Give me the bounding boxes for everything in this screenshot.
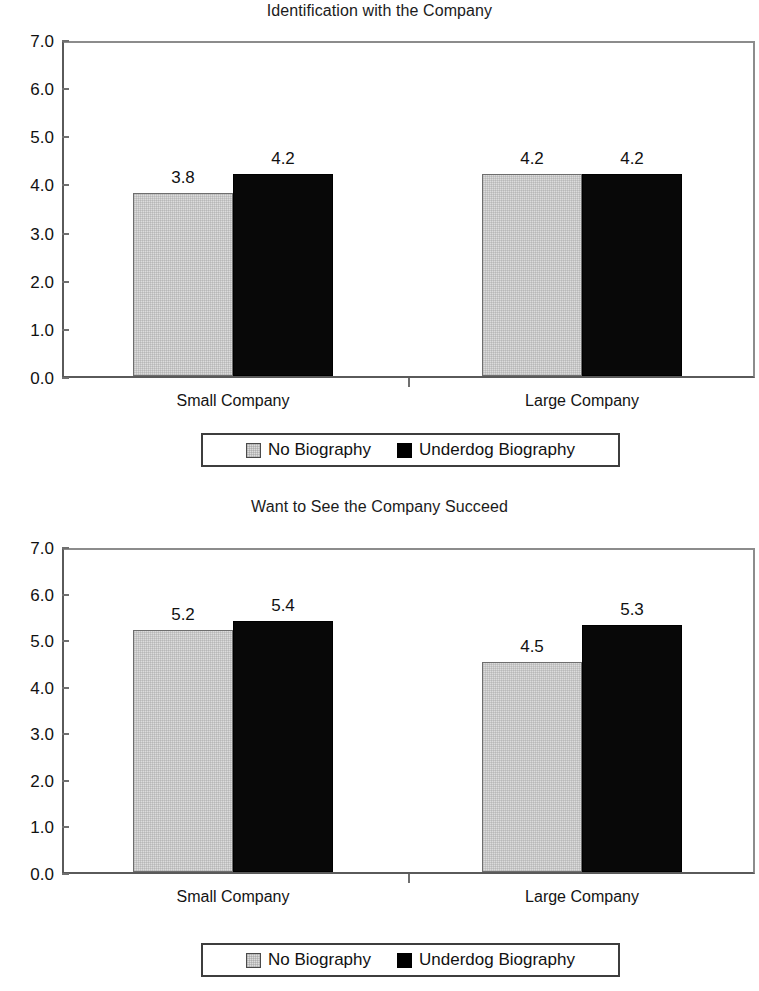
legend-label: No Biography <box>268 441 371 459</box>
bar-value-label: 5.4 <box>271 597 295 615</box>
bar-value-label: 3.8 <box>171 169 195 187</box>
bar-value-label: 4.2 <box>271 150 295 168</box>
bar <box>582 625 682 872</box>
legend-swatch-icon <box>246 443 261 458</box>
legend-item: Underdog Biography <box>397 441 575 459</box>
bar <box>233 174 333 376</box>
y-axis-tick-mark <box>62 594 69 596</box>
y-axis-tick-label: 6.0 <box>6 81 54 98</box>
y-axis-tick-mark <box>62 233 69 235</box>
bar-value-label: 4.5 <box>520 638 544 656</box>
y-axis-tick-label: 1.0 <box>6 819 54 836</box>
x-axis-group-separator-tick <box>408 378 410 387</box>
y-axis-tick-mark <box>62 377 69 379</box>
y-axis-tick-label: 3.0 <box>6 225 54 242</box>
y-axis-tick-label: 2.0 <box>6 772 54 789</box>
chart-legend: No BiographyUnderdog Biography <box>201 943 620 977</box>
legend-label: Underdog Biography <box>419 951 575 969</box>
y-axis-tick-mark <box>62 136 69 138</box>
y-axis-tick-mark <box>62 640 69 642</box>
legend-label: Underdog Biography <box>419 441 575 459</box>
y-axis: 0.01.02.03.04.05.06.07.0 <box>0 490 54 991</box>
y-axis-tick-label: 1.0 <box>6 321 54 338</box>
x-axis-category-label: Small Company <box>177 392 290 410</box>
bar <box>233 621 333 872</box>
x-axis-category-label: Large Company <box>525 392 639 410</box>
bar-value-label: 5.3 <box>620 601 644 619</box>
y-axis-tick-label: 0.0 <box>6 866 54 883</box>
y-axis-tick-mark <box>62 873 69 875</box>
chart-title: Want to See the Company Succeed <box>0 498 759 516</box>
legend-item: Underdog Biography <box>397 951 575 969</box>
y-axis-tick-mark <box>62 547 69 549</box>
y-axis-tick-mark <box>62 329 69 331</box>
x-axis-group-separator-tick <box>408 874 410 883</box>
y-axis-tick-mark <box>62 780 69 782</box>
x-axis-category-label: Small Company <box>177 888 290 906</box>
y-axis-tick-label: 5.0 <box>6 129 54 146</box>
y-axis-tick-mark <box>62 40 69 42</box>
bar-value-label: 5.2 <box>171 606 195 624</box>
y-axis-tick-label: 7.0 <box>6 33 54 50</box>
bar <box>133 193 233 376</box>
chart-legend: No BiographyUnderdog Biography <box>201 433 620 467</box>
chart-title: Identification with the Company <box>0 2 759 20</box>
bar <box>482 174 582 376</box>
y-axis: 0.01.02.03.04.05.06.07.0 <box>0 0 54 490</box>
y-axis-tick-label: 4.0 <box>6 679 54 696</box>
legend-swatch-icon <box>246 953 261 968</box>
y-axis-tick-mark <box>62 733 69 735</box>
legend-item: No Biography <box>246 951 371 969</box>
y-axis-tick-mark <box>62 826 69 828</box>
legend-swatch-icon <box>397 443 412 458</box>
figure-page: Identification with the Company 0.01.02.… <box>0 0 759 991</box>
y-axis-tick-mark <box>62 88 69 90</box>
plot-area <box>62 548 755 874</box>
y-axis-tick-label: 7.0 <box>6 540 54 557</box>
legend-label: No Biography <box>268 951 371 969</box>
legend-item: No Biography <box>246 441 371 459</box>
y-axis-tick-label: 2.0 <box>6 273 54 290</box>
y-axis-tick-label: 0.0 <box>6 370 54 387</box>
bar <box>582 174 682 376</box>
y-axis-tick-label: 4.0 <box>6 177 54 194</box>
bar-value-label: 4.2 <box>620 150 644 168</box>
x-axis-category-label: Large Company <box>525 888 639 906</box>
y-axis-tick-label: 3.0 <box>6 726 54 743</box>
y-axis-tick-mark <box>62 281 69 283</box>
legend-swatch-icon <box>397 953 412 968</box>
bar <box>133 630 233 872</box>
y-axis-tick-mark <box>62 184 69 186</box>
y-axis-tick-label: 6.0 <box>6 586 54 603</box>
plot-area <box>62 41 755 378</box>
y-axis-tick-mark <box>62 687 69 689</box>
chart-panel-succeed: Want to See the Company Succeed 0.01.02.… <box>0 490 759 991</box>
y-axis-tick-label: 5.0 <box>6 633 54 650</box>
chart-panel-identification: Identification with the Company 0.01.02.… <box>0 0 759 490</box>
bar-value-label: 4.2 <box>520 150 544 168</box>
bar <box>482 662 582 872</box>
